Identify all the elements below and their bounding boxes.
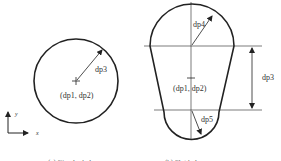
x-axis-label: x — [35, 130, 39, 136]
circular-hole-figure: dp3 (dp1, dp2) — [34, 39, 118, 123]
caption-b: (b) Slot hole — [165, 158, 200, 161]
top-radius-label: dp4 — [193, 20, 205, 29]
slot-hole-figure: dp4 (dp1, dp2) dp3 dp5 — [144, 2, 274, 140]
axis-indicator: y x — [8, 111, 39, 136]
radius-label: dp3 — [95, 65, 107, 74]
slot-outline — [150, 4, 234, 139]
center-label: (dp1, dp2) — [60, 91, 94, 100]
diagram-canvas: dp3 (dp1, dp2) y x dp4 (dp1, dp2) dp3 dp… — [0, 0, 281, 161]
distance-label: dp3 — [262, 73, 274, 82]
caption-a: (a) Circular hole — [48, 158, 94, 161]
bottom-radius-arrow-icon — [192, 111, 201, 134]
bottom-radius-label: dp5 — [201, 115, 213, 124]
y-axis-label: y — [14, 111, 18, 117]
center-label: (dp1, dp2) — [173, 84, 207, 93]
